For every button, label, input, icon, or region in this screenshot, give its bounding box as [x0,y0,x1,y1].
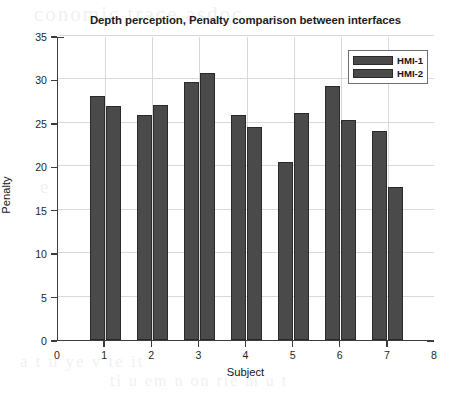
x-axis-tick-label: 5 [290,349,296,361]
x-axis-tick [386,341,387,347]
bar-hmi-2-subject-5 [294,113,309,340]
x-axis-tick [292,341,293,347]
x-axis-tick-label: 4 [243,349,249,361]
y-axis-tick-label: 35 [35,31,47,43]
y-axis-tick-label: 0 [41,335,47,347]
y-axis-tick [51,210,57,211]
bar-hmi-1-subject-5 [278,162,293,340]
x-axis-tick [339,341,340,347]
bar-hmi-1-subject-4 [231,115,246,340]
x-axis-tick [103,341,104,347]
x-axis-tick-label: 7 [384,349,390,361]
y-axis-tick [51,123,57,124]
chart-title: Depth perception, Penalty comparison bet… [57,14,434,26]
y-axis-tick [51,36,57,37]
legend-item[interactable]: HMI-2 [353,67,423,80]
x-axis-tick-label: 3 [195,349,201,361]
y-axis-label: Penalty [0,176,12,213]
bar-hmi-2-subject-3 [200,73,215,340]
bar-hmi-2-subject-7 [388,187,403,340]
bar-hmi-1-subject-3 [184,82,199,340]
legend-swatch-hmi-2 [353,69,393,78]
y-axis-tick [51,253,57,254]
x-axis-tick [198,341,199,347]
y-axis-tick [51,80,57,81]
bar-chart-figure: Depth perception, Penalty comparison bet… [0,0,456,396]
bar-hmi-1-subject-6 [325,86,340,340]
y-axis-tick [51,167,57,168]
bar-hmi-2-subject-1 [106,106,121,340]
legend-label-hmi-1: HMI-1 [397,55,423,66]
bar-hmi-2-subject-4 [247,127,262,340]
x-axis-tick [245,341,246,347]
y-axis-tick-label: 5 [41,292,47,304]
x-axis-tick-label: 2 [148,349,154,361]
y-axis-tick-label: 25 [35,118,47,130]
x-axis-tick [151,341,152,347]
legend-label-hmi-2: HMI-2 [397,68,423,79]
bar-hmi-2-subject-2 [153,105,168,340]
y-axis-tick [51,340,57,341]
gridline-horizontal [58,35,434,36]
x-axis-tick-label: 1 [101,349,107,361]
axis-frame-tick-right [427,341,434,342]
y-axis-tick [51,297,57,298]
y-axis-tick-label: 10 [35,248,47,260]
y-axis-tick-label: 30 [35,74,47,86]
legend-item[interactable]: HMI-1 [353,54,423,67]
bar-hmi-1-subject-7 [372,131,387,340]
legend-swatch-hmi-1 [353,56,393,65]
axis-frame-tick-top [57,37,64,38]
bar-hmi-1-subject-1 [90,96,105,340]
x-axis-tick-label: 8 [431,349,437,361]
x-axis-tick-label: 6 [337,349,343,361]
x-axis-label: Subject [57,366,434,378]
chart-legend: HMI-1 HMI-2 [348,50,428,84]
bar-hmi-1-subject-2 [137,115,152,340]
y-axis-tick-label: 20 [35,161,47,173]
x-axis-tick-label: 0 [54,349,60,361]
bar-hmi-2-subject-6 [341,120,356,340]
y-axis-tick-label: 15 [35,205,47,217]
